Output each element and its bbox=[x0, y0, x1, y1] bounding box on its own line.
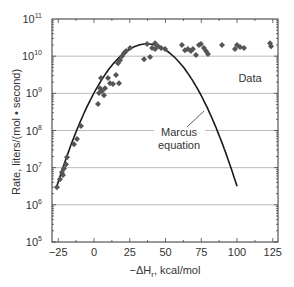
y-tick-label: 106 bbox=[26, 198, 42, 211]
y-tick-label-exponent: 8 bbox=[38, 124, 42, 131]
y-tick-label-base: 10 bbox=[26, 162, 38, 174]
data-point bbox=[193, 52, 199, 58]
data-point bbox=[179, 42, 185, 48]
y-tick-label-base: 10 bbox=[22, 50, 34, 62]
y-tick-label: 109 bbox=[26, 86, 42, 99]
x-tick-label: 50 bbox=[159, 246, 171, 258]
data-point bbox=[141, 56, 147, 62]
y-tick-label-exponent: 6 bbox=[38, 198, 42, 205]
y-tick-label: 105 bbox=[26, 235, 42, 248]
data-point bbox=[98, 75, 104, 81]
y-tick-label-base: 10 bbox=[26, 87, 38, 99]
marcus-rate-chart: −250255075100125 10510610710810910101011… bbox=[0, 0, 294, 287]
x-tick-label: 75 bbox=[195, 246, 207, 258]
y-tick-label: 1011 bbox=[22, 12, 42, 25]
x-tick-label: 0 bbox=[91, 246, 97, 258]
y-axis-title: Rate, liters/(mol • second) bbox=[10, 69, 22, 195]
y-tick-label-exponent: 11 bbox=[35, 12, 42, 19]
data-point bbox=[147, 54, 153, 60]
annotation-marcus-line2: equation bbox=[158, 139, 200, 151]
y-tick-label: 108 bbox=[26, 124, 42, 137]
marcus-curve bbox=[57, 44, 237, 186]
x-tick-label: −25 bbox=[49, 246, 68, 258]
y-tick-label-base: 10 bbox=[26, 125, 38, 137]
y-tick-label-base: 10 bbox=[26, 199, 38, 211]
annotation-marcus-line1: Marcus bbox=[161, 126, 198, 138]
data-point bbox=[219, 42, 225, 48]
x-tick-label: 125 bbox=[264, 246, 282, 258]
x-axis-title: −ΔHr, kcal/mol bbox=[130, 264, 201, 279]
data-point bbox=[105, 75, 111, 81]
x-tick-label: 100 bbox=[228, 246, 246, 258]
y-tick-labels: 10510610710810910101011 bbox=[22, 12, 42, 248]
marcus-curve-group bbox=[57, 44, 237, 186]
y-tick-label-exponent: 7 bbox=[38, 161, 42, 168]
data-point bbox=[64, 154, 70, 160]
x-tick-labels: −250255075100125 bbox=[49, 246, 282, 258]
data-point bbox=[54, 184, 60, 190]
y-tick-label-exponent: 9 bbox=[38, 86, 42, 93]
y-tick-label: 107 bbox=[26, 161, 42, 174]
y-tick-label-exponent: 10 bbox=[34, 49, 42, 56]
data-point bbox=[116, 80, 122, 86]
data-point bbox=[95, 101, 101, 107]
y-tick-label-base: 10 bbox=[22, 13, 34, 25]
data-point bbox=[144, 41, 150, 47]
y-tick-label-base: 10 bbox=[26, 236, 38, 248]
annotation-leader-line bbox=[187, 111, 204, 127]
y-tick-label-exponent: 5 bbox=[38, 235, 42, 242]
annotation-data: Data bbox=[238, 72, 262, 84]
x-axis-title-suffix: , kcal/mol bbox=[154, 264, 200, 276]
y-tick-label: 1010 bbox=[22, 49, 42, 62]
data-point bbox=[113, 72, 119, 78]
x-tick-label: 25 bbox=[124, 246, 136, 258]
x-axis-title-main: −ΔH bbox=[130, 264, 152, 276]
